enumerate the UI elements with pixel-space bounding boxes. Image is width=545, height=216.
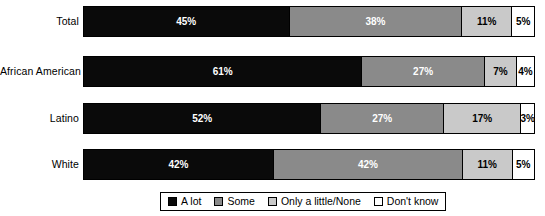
stacked-bar-total: 45% 38% 11% 5%	[83, 6, 535, 37]
bar-segment-some[interactable]: 42%	[273, 150, 462, 179]
legend-swatch-icon-a-lot	[168, 197, 177, 206]
chart-row-white: White 42% 42% 11% 5%	[0, 149, 545, 180]
bar-segment-dont-know[interactable]: 5%	[511, 7, 534, 36]
stacked-bar-latino: 52% 27% 17% 3%	[83, 103, 535, 134]
chart-row-total: Total 45% 38% 11% 5%	[0, 6, 545, 37]
bar-segment-dont-know[interactable]: 5%	[512, 150, 535, 179]
legend-item-only-a-little-none[interactable]: Only a little/None	[268, 196, 361, 207]
bar-segment-a-lot[interactable]: 52%	[84, 104, 320, 133]
bar-segment-dont-know[interactable]: 3%	[520, 104, 534, 133]
chart-row-latino: Latino 52% 27% 17% 3%	[0, 103, 545, 134]
legend-item-a-lot[interactable]: A lot	[168, 196, 201, 207]
legend-label-only-a-little-none: Only a little/None	[281, 196, 361, 207]
category-label-total: Total	[0, 6, 79, 37]
legend-swatch-icon-dont-know	[374, 197, 383, 206]
legend-label-some: Some	[227, 196, 254, 207]
bar-segment-only-a-little-none[interactable]: 11%	[462, 150, 512, 179]
bar-segment-some[interactable]: 27%	[361, 57, 484, 86]
bar-segment-some[interactable]: 38%	[289, 7, 462, 36]
stacked-bar-white: 42% 42% 11% 5%	[83, 149, 535, 180]
category-label-latino: Latino	[0, 103, 79, 134]
bar-segment-only-a-little-none[interactable]: 11%	[461, 7, 511, 36]
legend-label-a-lot: A lot	[181, 196, 201, 207]
legend-label-dont-know: Don't know	[387, 196, 439, 207]
chart-legend: A lot Some Only a little/None Don't know	[160, 192, 446, 211]
bar-segment-some[interactable]: 27%	[320, 104, 443, 133]
bar-segment-only-a-little-none[interactable]: 17%	[443, 104, 520, 133]
legend-swatch-icon-only-a-little-none	[268, 197, 277, 206]
chart-plot-area: Total 45% 38% 11% 5% African American 61…	[0, 0, 545, 186]
legend-item-some[interactable]: Some	[214, 196, 254, 207]
legend-item-dont-know[interactable]: Don't know	[374, 196, 439, 207]
category-label-white: White	[0, 149, 79, 180]
category-label-african-american: African American	[0, 56, 79, 87]
bar-segment-only-a-little-none[interactable]: 7%	[484, 57, 516, 86]
legend-swatch-icon-some	[214, 197, 223, 206]
bar-segment-a-lot[interactable]: 61%	[84, 57, 361, 86]
chart-row-african-american: African American 61% 27% 7% 4%	[0, 56, 545, 87]
bar-segment-dont-know[interactable]: 4%	[516, 57, 534, 86]
bar-segment-a-lot[interactable]: 45%	[84, 7, 289, 36]
stacked-bar-chart: Total 45% 38% 11% 5% African American 61…	[0, 0, 545, 216]
bar-segment-a-lot[interactable]: 42%	[84, 150, 273, 179]
stacked-bar-african-american: 61% 27% 7% 4%	[83, 56, 535, 87]
